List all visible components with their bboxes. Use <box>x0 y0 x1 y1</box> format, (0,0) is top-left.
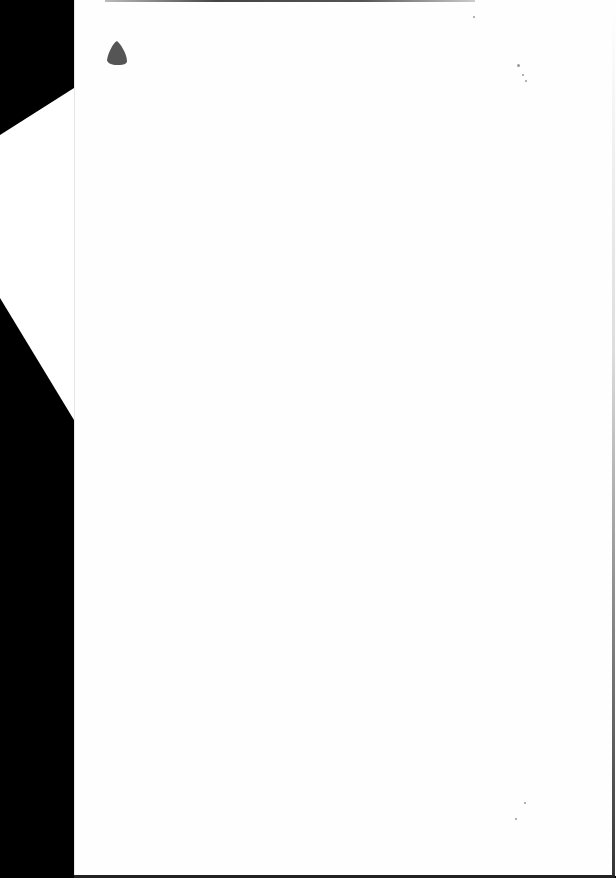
page-right-edge <box>612 0 615 878</box>
ink-blot-icon <box>105 40 129 66</box>
dust-speck <box>473 16 475 18</box>
dust-speck <box>524 802 526 804</box>
dust-speck <box>522 74 524 76</box>
dust-speck <box>525 80 527 82</box>
dust-speck <box>517 64 520 67</box>
document-page <box>74 0 616 876</box>
dust-speck <box>515 818 517 820</box>
page-top-edge <box>105 0 475 2</box>
